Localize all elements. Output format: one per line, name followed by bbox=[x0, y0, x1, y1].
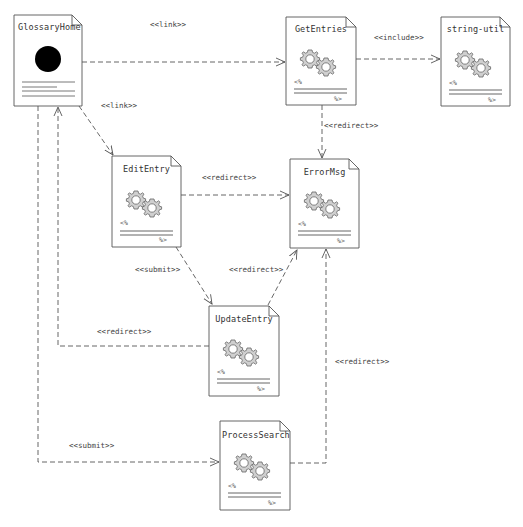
edge-label-redirect-updateentry-errormsg: <<redirect>> bbox=[229, 265, 283, 274]
edge-processsearch-errormsg bbox=[290, 249, 326, 463]
edge-label-include: <<include>> bbox=[374, 33, 424, 42]
script-open-tag: <% bbox=[120, 219, 128, 227]
node-getentries[interactable]: GetEntries <% %> bbox=[286, 17, 356, 105]
edge-label-redirect-getentries: <<redirect>> bbox=[324, 121, 378, 130]
node-title: ErrorMsg bbox=[290, 167, 359, 177]
node-title: EditEntry bbox=[112, 164, 181, 174]
script-close-tag: %> bbox=[159, 236, 167, 244]
node-title: string-util bbox=[441, 24, 510, 34]
node-editentry[interactable]: EditEntry <% %> bbox=[112, 156, 181, 247]
node-errormsg[interactable]: ErrorMsg <% %> bbox=[290, 159, 359, 248]
edge-label-submit-editentry: <<submit>> bbox=[135, 265, 180, 274]
edge-label-redirect-editentry: <<redirect>> bbox=[202, 173, 256, 182]
edge-editentry-updateentry bbox=[176, 247, 212, 304]
script-open-tag: <% bbox=[449, 79, 457, 87]
script-close-tag: %> bbox=[334, 95, 342, 103]
script-open-tag: <% bbox=[298, 220, 306, 228]
script-close-tag: %> bbox=[268, 499, 276, 507]
node-title: GlossaryHome bbox=[16, 22, 81, 32]
node-glossaryhome[interactable]: GlossaryHome bbox=[14, 15, 82, 106]
edge-label-link-getentries: <<link>> bbox=[150, 20, 186, 29]
script-open-tag: <% bbox=[217, 368, 225, 376]
node-title: UpdateEntry bbox=[209, 314, 279, 324]
script-close-tag: %> bbox=[337, 237, 345, 245]
node-title: GetEntries bbox=[286, 24, 356, 34]
script-open-tag: <% bbox=[228, 482, 236, 490]
edge-updateentry-errormsg bbox=[268, 250, 297, 305]
node-updateentry[interactable]: UpdateEntry <% %> bbox=[209, 306, 279, 396]
edge-label-redirect-processsearch: <<redirect>> bbox=[335, 357, 389, 366]
script-close-tag: %> bbox=[257, 385, 265, 393]
node-processsearch[interactable]: ProcessSearch <% %> bbox=[220, 421, 290, 510]
edge-label-submit-processsearch: <<submit>> bbox=[69, 441, 114, 450]
edge-glossaryhome-editentry bbox=[79, 106, 113, 155]
script-open-tag: <% bbox=[294, 78, 302, 86]
node-string-util[interactable]: string-util <% %> bbox=[441, 17, 510, 106]
edge-label-redirect-updateentry-glossaryhome: <<redirect>> bbox=[97, 327, 151, 336]
script-close-tag: %> bbox=[488, 96, 496, 104]
node-title: ProcessSearch bbox=[222, 430, 290, 440]
edge-label-link-editentry: <<link>> bbox=[101, 101, 137, 110]
